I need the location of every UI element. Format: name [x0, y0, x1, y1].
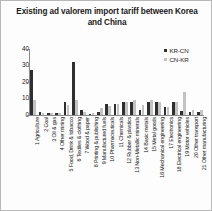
bar-group — [162, 49, 170, 115]
x-tick-label: 1 Agriculture — [35, 117, 40, 145]
bar-group — [137, 49, 145, 115]
bar-group — [79, 49, 87, 115]
bar-cn-kr — [175, 102, 178, 115]
bar-group — [154, 49, 162, 115]
bar-cn-kr — [125, 102, 128, 115]
bar-group — [129, 49, 137, 115]
bar-cn-kr — [100, 108, 103, 115]
x-tick-label: 5 Food, Drink & tobacco — [69, 117, 74, 171]
bar-group — [121, 49, 129, 115]
x-tick-label: 7 Wood & paper — [85, 117, 90, 154]
bar-cn-kr — [50, 113, 53, 115]
plot-area — [29, 49, 204, 115]
bar-cn-kr — [150, 100, 153, 115]
bar-group — [104, 49, 112, 115]
x-tick-label: 15 Metal goods — [152, 117, 157, 152]
bar-group — [37, 49, 45, 115]
bar-group — [187, 49, 195, 115]
bar-cn-kr — [183, 92, 186, 115]
bar-cn-kr — [192, 110, 195, 115]
x-tick-label: 19 Motor vehicles — [185, 117, 190, 157]
x-tick-label: 14 Basic metals — [144, 117, 149, 153]
bar-group — [87, 49, 95, 115]
bar-cn-kr — [158, 102, 161, 115]
x-tick-label: 8 Printing & publishing — [94, 117, 99, 167]
bar-cn-kr — [92, 113, 95, 115]
chart-title: Existing ad valorem import tariff betwee… — [13, 7, 201, 28]
bar-cn-kr — [200, 110, 203, 115]
bar-group — [46, 49, 54, 115]
x-tick-label: 11 Chemicals — [119, 117, 124, 147]
bar-cn-kr — [83, 112, 86, 115]
x-tick-label: 4 Other mining — [60, 117, 65, 150]
bar-group — [146, 49, 154, 115]
x-tick-label: 18 Electrical engineering — [177, 117, 182, 172]
x-tick-label: 6 Textiles & clothing — [77, 117, 82, 161]
x-axis-labels: 1 Agriculture2 Coal3 Oil & gas4 Other mi… — [29, 117, 204, 209]
bar-cn-kr — [142, 105, 145, 115]
bar-cn-kr — [42, 113, 45, 115]
x-tick-label: 2 Coal — [44, 117, 49, 132]
bar-group — [179, 49, 187, 115]
bar-cn-kr — [75, 100, 78, 115]
bar-cn-kr — [58, 113, 61, 115]
bar-cn-kr — [117, 104, 120, 115]
bar-group — [196, 49, 204, 115]
bar-cn-kr — [33, 100, 36, 115]
x-tick-label: 10 Pharmaceuticals — [110, 117, 115, 162]
bar-group — [171, 49, 179, 115]
bar-cn-kr — [167, 107, 170, 115]
x-tick-label: 13 Non-Metallic minerals — [135, 117, 140, 173]
bar-cn-kr — [108, 106, 111, 115]
x-tick-label: 16 Mechanical engineering — [160, 117, 165, 178]
bar-group — [96, 49, 104, 115]
bar-group — [62, 49, 70, 115]
x-tick-label: 9 Manufactured fuels — [102, 117, 107, 164]
x-tick-label: 21 Other manufacturing — [202, 117, 207, 170]
bar-group — [112, 49, 120, 115]
bar-group — [54, 49, 62, 115]
bar-cn-kr — [67, 105, 70, 115]
x-tick-label: 12 Rubber & plastics — [127, 117, 132, 164]
x-tick-label: 20 Other transport — [194, 117, 199, 158]
bar-group — [71, 49, 79, 115]
bar-cn-kr — [133, 100, 136, 115]
chart-figure: Existing ad valorem import tariff betwee… — [0, 0, 212, 211]
x-tick-label: 3 Oil & gas — [52, 117, 57, 142]
y-axis: 010203040 — [1, 1, 29, 211]
x-tick-label: 17 Electronics — [169, 117, 174, 149]
bar-group — [29, 49, 37, 115]
